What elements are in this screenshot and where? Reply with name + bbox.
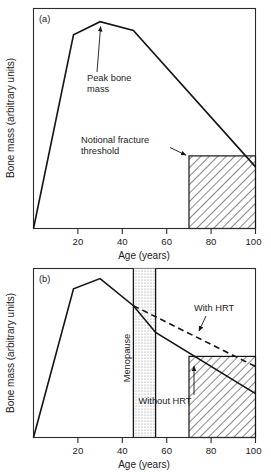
panel-a-x-axis-label: Age (years) bbox=[118, 250, 170, 261]
panel-a-threshold-label-line2: threshold bbox=[81, 146, 119, 156]
panel-b-with-hrt-label: With HRT bbox=[194, 303, 234, 313]
panel-a-xtick-20: 20 bbox=[73, 236, 84, 247]
panel-a-peak-label-line1: Peak bone bbox=[87, 73, 131, 83]
panel-a-xtick-40: 40 bbox=[117, 236, 128, 247]
panel-a-xtick-100: 100 bbox=[245, 236, 261, 247]
panel-b-x-axis-label: Age (years) bbox=[118, 459, 170, 470]
bone-mass-figure: Peak bone mass Notional fracture thresho… bbox=[0, 0, 271, 475]
panel-b-xtick-20: 20 bbox=[73, 445, 84, 456]
panel-b-menopause-label: Menopause bbox=[122, 334, 132, 383]
panel-a-threshold-label-line1: Notional fracture bbox=[81, 135, 149, 145]
panel-b-xtick-40: 40 bbox=[117, 445, 128, 456]
panel-a-xtick-80: 80 bbox=[206, 236, 217, 247]
figure-canvas: Peak bone mass Notional fracture thresho… bbox=[0, 0, 271, 475]
panel-b-without-hrt-label: Without HRT bbox=[138, 396, 191, 406]
panel-b-xtick-60: 60 bbox=[161, 445, 172, 456]
panel-a-tag: (a) bbox=[39, 14, 50, 24]
panel-b-y-axis-label: Bone mass (arbitrary units) bbox=[5, 293, 16, 413]
panel-a-xtick-60: 60 bbox=[161, 236, 172, 247]
panel-b-tag: (b) bbox=[39, 274, 50, 284]
panel-a-fracture-threshold-region bbox=[189, 156, 256, 229]
panel-b-fracture-threshold-region bbox=[189, 356, 256, 437]
panel-b-xtick-80: 80 bbox=[206, 445, 217, 456]
panel-b-xtick-100: 100 bbox=[245, 445, 261, 456]
panel-a-y-axis-label: Bone mass (arbitrary units) bbox=[5, 58, 16, 178]
panel-a-peak-label-line2: mass bbox=[87, 84, 110, 94]
panel-b-menopause-band bbox=[133, 269, 155, 438]
